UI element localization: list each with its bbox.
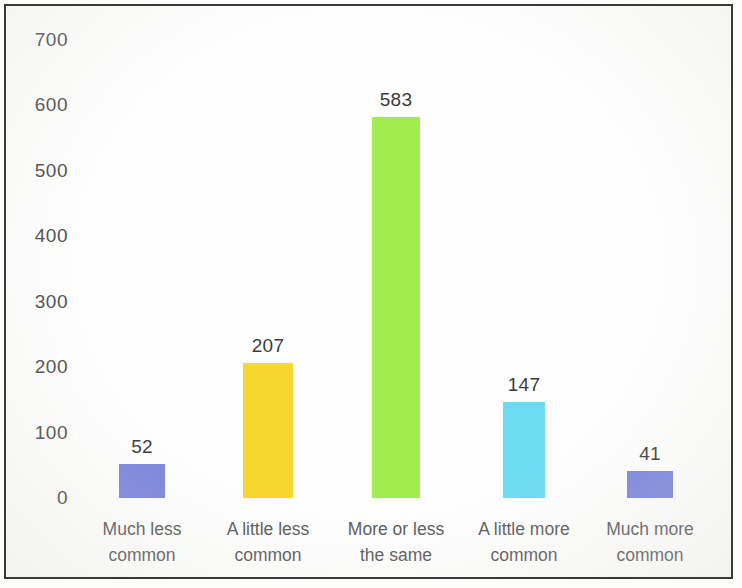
x-axis-category-label: Much less common <box>72 516 212 568</box>
chart-page: 010020030040050060070052Much less common… <box>0 0 742 588</box>
y-axis-tick-label: 200 <box>0 356 68 378</box>
y-axis-tick-label: 100 <box>0 422 68 444</box>
bar-value-label: 583 <box>336 89 456 111</box>
bar <box>627 471 673 498</box>
bar <box>243 363 293 498</box>
x-axis-category-label: More or less the same <box>326 516 466 568</box>
y-axis-tick-label: 300 <box>0 291 68 313</box>
bar-value-label: 147 <box>464 374 584 396</box>
y-axis-tick-label: 700 <box>0 29 68 51</box>
plot-area: 010020030040050060070052Much less common… <box>6 6 735 581</box>
y-axis-tick-label: 0 <box>0 487 68 509</box>
bar <box>119 464 165 498</box>
bar-value-label: 52 <box>82 436 202 458</box>
bar-value-label: 41 <box>590 443 710 465</box>
x-axis-category-label: A little more common <box>454 516 594 568</box>
x-axis-category-label: A little less common <box>198 516 338 568</box>
y-axis-tick-label: 600 <box>0 94 68 116</box>
bar <box>503 402 545 498</box>
x-axis-category-label: Much more common <box>580 516 720 568</box>
y-axis-tick-label: 500 <box>0 160 68 182</box>
y-axis-tick-label: 400 <box>0 225 68 247</box>
bar <box>372 117 420 498</box>
bar-value-label: 207 <box>208 335 328 357</box>
chart-frame: 010020030040050060070052Much less common… <box>4 4 733 579</box>
